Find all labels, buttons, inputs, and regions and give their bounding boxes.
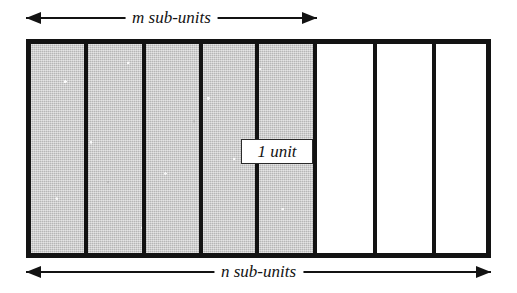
one-unit-callout-label: 1 unit <box>241 139 313 164</box>
arrow-head-right-icon <box>476 266 491 278</box>
arrow-head-left-icon <box>26 12 41 24</box>
column-divider-2 <box>142 39 146 258</box>
unit-subdivision-diagram: m sub-units 1 unit n sub-units <box>0 0 517 293</box>
n-sub-units-dimension-arrow: n sub-units <box>26 263 491 281</box>
column-divider-6 <box>373 39 377 258</box>
m-sub-units-dimension-arrow: m sub-units <box>26 9 317 27</box>
column-divider-5 <box>313 39 317 258</box>
m-sub-units-label: m sub-units <box>125 9 218 27</box>
n-sub-units-label: n sub-units <box>214 263 303 281</box>
column-divider-1 <box>84 39 88 258</box>
column-divider-7 <box>432 39 436 258</box>
arrow-head-left-icon <box>26 266 41 278</box>
arrow-head-right-icon <box>302 12 317 24</box>
column-divider-3 <box>199 39 203 258</box>
